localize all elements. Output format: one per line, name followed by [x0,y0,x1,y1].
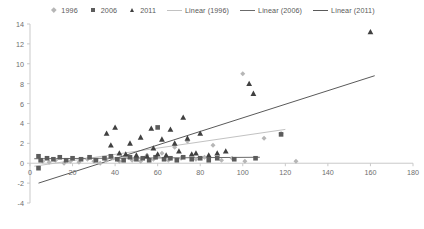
data-point [206,158,211,163]
data-point [279,132,284,137]
data-point [262,136,267,141]
data-point [159,136,165,141]
data-point [206,152,212,157]
data-point [70,156,75,161]
plot-area [0,0,424,229]
data-point [64,158,69,163]
x-tick-label: 20 [63,168,83,177]
x-tick-label: 40 [105,168,125,177]
x-tick-label: 0 [20,168,40,177]
data-point [251,91,257,96]
data-point [181,155,186,160]
series-1996 [40,71,298,166]
data-point [162,157,167,162]
data-point [36,154,41,159]
data-point [180,114,186,119]
data-point [198,156,203,161]
data-point [368,29,374,34]
data-point [38,158,43,163]
data-point [193,150,199,155]
data-point [219,158,224,163]
data-point [45,156,50,161]
data-point [127,140,133,145]
data-point [147,158,152,163]
data-point [108,142,114,147]
data-point [172,140,178,145]
data-point [215,156,220,161]
y-tick-label: 4 [8,119,24,128]
y-tick-label: 0 [8,159,24,168]
scatter-chart: 1996 2006 2011 Linear (1996) Linear (200… [0,0,424,229]
data-point [134,157,139,162]
trend-line [39,76,375,183]
data-point [246,81,252,86]
data-point [159,151,164,156]
data-point [115,157,120,162]
y-tick-label: 2 [8,139,24,148]
x-tick-label: 120 [275,168,295,177]
y-tick-label: 12 [8,39,24,48]
data-point [148,125,154,130]
data-point [240,71,245,76]
data-point [223,148,229,153]
data-point [168,126,174,131]
x-tick-label: 140 [318,168,338,177]
data-point [51,157,56,162]
data-point [104,130,110,135]
data-point [98,161,103,166]
data-point [94,158,99,163]
data-point [232,157,237,162]
data-point [175,158,180,163]
data-point [87,155,92,160]
data-point [155,125,160,130]
data-point [210,143,215,148]
data-point [144,153,150,158]
data-point [155,151,161,156]
data-point [253,156,258,161]
data-point [189,151,195,156]
x-tick-label: 160 [360,168,380,177]
data-point [121,158,126,163]
data-point [133,152,139,157]
x-tick-label: 80 [190,168,210,177]
x-tick-label: 180 [403,168,423,177]
y-tick-label: 8 [8,79,24,88]
y-tick-label: 10 [8,59,24,68]
series-2011 [104,29,374,159]
data-point [112,124,118,129]
data-point [102,156,107,161]
data-point [79,157,84,162]
y-tick-label: 6 [8,99,24,108]
data-point [57,155,62,160]
data-point [128,155,133,160]
data-point [189,157,194,162]
y-tick-label: -2 [8,179,24,188]
data-point [138,134,144,139]
y-tick-label: -4 [8,199,24,208]
data-point [214,150,220,155]
x-tick-label: 100 [233,168,253,177]
data-point [176,148,182,153]
data-point [109,154,114,159]
x-tick-label: 60 [148,168,168,177]
data-point [116,150,122,155]
y-tick-label: 14 [8,20,24,29]
data-point [168,156,173,161]
